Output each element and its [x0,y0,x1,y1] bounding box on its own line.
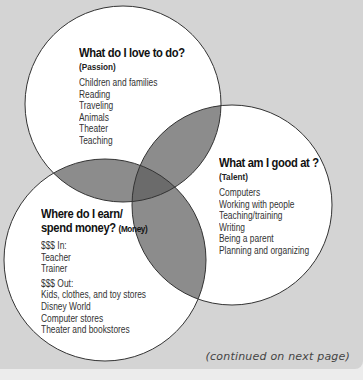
talent-item: Teaching/training [219,210,316,222]
talent-subtitle: (Talent) [219,171,319,183]
money-out-item: Disney World [41,301,146,313]
money-block: Where do I earn/ spend money? (Money) $$… [41,207,166,336]
money-out-item: Kids, clothes, and toy stores [41,289,146,301]
passion-item: Reading [79,89,182,101]
passion-title: What do I love to do? [79,46,185,60]
passion-item: Children and families [79,77,182,89]
money-title-text: spend money? [41,220,116,235]
passion-item: Theater [79,123,182,135]
money-subtitle: (Money) [119,223,148,234]
talent-item: Writing [219,222,316,234]
talent-item: Computers [219,187,316,199]
passion-subtitle: (Passion) [79,61,185,73]
money-in-label: $$$ In: [41,240,146,252]
talent-item: Planning and organizing [219,245,316,257]
money-out-item: Computer stores [41,313,146,325]
money-title-line2: spend money? (Money) [41,221,149,236]
talent-item: Being a parent [219,233,316,245]
money-out-item: Theater and bookstores [41,324,146,336]
passion-item: Traveling [79,100,182,112]
passion-item: Teaching [79,135,182,147]
talent-block: What am I good at ? (Talent) Computers W… [219,156,335,257]
money-in-item: Trainer [41,263,146,275]
money-in-item: Teacher [41,252,146,264]
passion-block: What do I love to do? (Passion) Children… [79,46,202,147]
talent-item: Working with people [219,199,316,211]
money-out-label: $$$ Out: [41,278,146,290]
continued-note: (continued on next page) [206,350,350,363]
talent-title: What am I good at ? [219,156,319,170]
money-title-line1: Where do I earn/ [41,207,149,221]
passion-item: Animals [79,112,182,124]
